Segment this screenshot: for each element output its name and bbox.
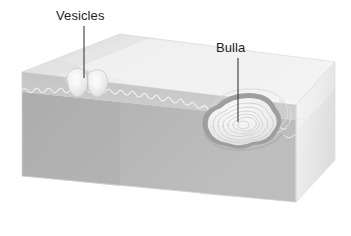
skin-block-illustration <box>0 0 351 236</box>
skin-lesion-figure: Vesicles Bulla <box>0 0 351 236</box>
label-vesicles: Vesicles <box>56 9 105 22</box>
label-bulla: Bulla <box>216 41 245 54</box>
